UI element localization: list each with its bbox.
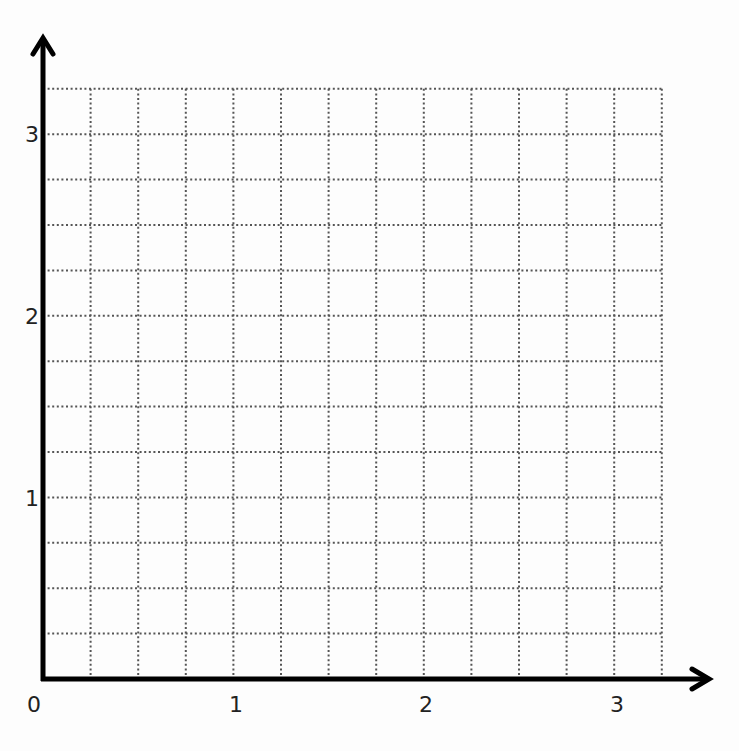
axes (33, 38, 709, 689)
y-tick-label-2: 2 (25, 306, 39, 328)
x-tick-label-1: 1 (229, 694, 243, 716)
y-tick-label-3: 3 (25, 124, 39, 146)
origin-label: 0 (27, 694, 41, 716)
y-tick-label-1: 1 (25, 488, 39, 510)
coordinate-grid (0, 0, 739, 751)
x-tick-label-2: 2 (419, 694, 433, 716)
dotted-gridlines (43, 89, 662, 679)
x-tick-label-3: 3 (610, 694, 624, 716)
